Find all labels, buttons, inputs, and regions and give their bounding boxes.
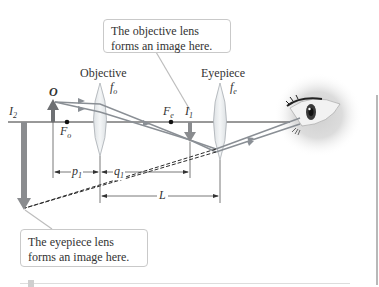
label-eyepiece: Eyepiece xyxy=(201,66,245,81)
callout-pointer-bottom xyxy=(25,210,52,229)
label-image-i1: I1 xyxy=(185,104,193,120)
bottom-rule xyxy=(20,283,350,284)
label-q1: q1 xyxy=(113,164,125,180)
label-focal-fo: Fo xyxy=(60,124,71,140)
label-length-l: L xyxy=(157,188,168,203)
label-f-objective: fo xyxy=(110,80,117,96)
callout-pointer-top xyxy=(156,52,190,110)
label-p1: p1 xyxy=(71,164,83,180)
dimension-lines xyxy=(53,122,220,203)
callout-objective-image: The objective lens forms an image here. xyxy=(103,19,231,53)
page-edge xyxy=(376,95,378,285)
eye-illustration xyxy=(274,73,362,157)
label-f-eyepiece: fe xyxy=(230,80,237,96)
callout-eyepiece-image: The eyepiece lens forms an image here. xyxy=(20,229,148,267)
label-image-i2: I2 xyxy=(9,104,17,120)
light-rays xyxy=(55,102,300,152)
microscope-diagram: Objective Eyepiece O I2 I1 fo fe Fo Fe p… xyxy=(0,0,379,287)
label-objective: Objective xyxy=(80,66,127,81)
objective-lens xyxy=(94,83,107,156)
label-object-o: O xyxy=(49,85,58,100)
label-focal-fe: Fe xyxy=(163,104,174,120)
image-i2-arrow xyxy=(17,122,31,210)
figure-marker-icon xyxy=(28,280,34,287)
